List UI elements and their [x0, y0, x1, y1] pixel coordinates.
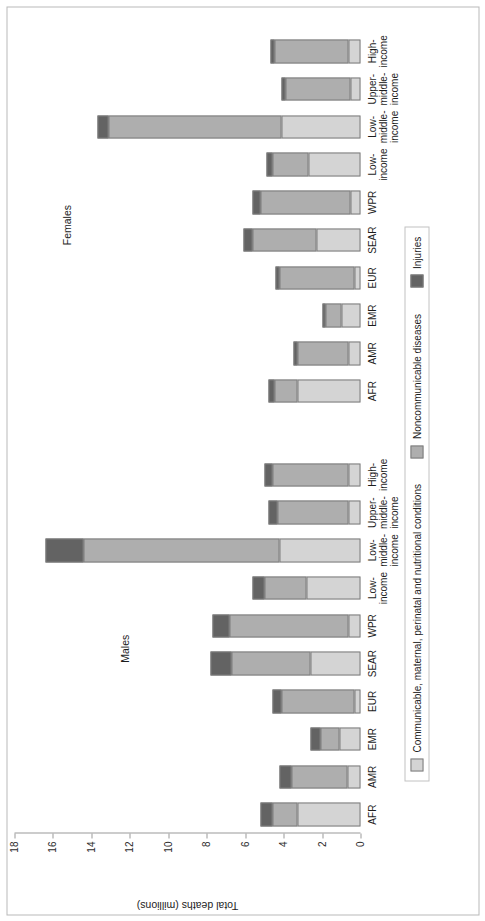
- bar-females-EMR: [14, 303, 360, 326]
- y-axis-title: Total deaths (millions): [136, 899, 238, 911]
- bar-segment: [108, 115, 281, 138]
- bar-segment: [268, 500, 278, 523]
- bar-males-EUR: [14, 689, 360, 712]
- bar-males-High-income: [14, 463, 360, 486]
- bar-segment: [212, 614, 229, 637]
- bar-segment: [285, 77, 350, 100]
- y-tick: [91, 833, 92, 838]
- bar-segment: [348, 500, 360, 523]
- y-tick-label: 18: [9, 841, 19, 867]
- bar-segment: [339, 727, 360, 750]
- bar-segment: [297, 379, 360, 402]
- bar-segment: [354, 266, 360, 289]
- y-tick-label: 14: [86, 841, 96, 867]
- y-tick: [129, 833, 130, 838]
- bar-segment: [264, 463, 272, 486]
- bar-segment: [297, 802, 360, 825]
- bar-segment: [252, 190, 260, 213]
- bar-females-EUR: [14, 266, 360, 289]
- legend-swatch-icon: [410, 758, 423, 771]
- bar-segment: [252, 228, 315, 251]
- legend-label: Communicable, maternal, perinatal and nu…: [411, 484, 422, 752]
- bar-segment: [266, 152, 272, 175]
- chart-page: Total deaths (millions) 024681012141618 …: [0, 0, 485, 921]
- y-tick-label: 10: [163, 841, 173, 867]
- y-tick: [322, 833, 323, 838]
- bar-segment: [341, 303, 360, 326]
- bar-segment: [293, 341, 297, 364]
- bar-segment: [354, 689, 360, 712]
- plot-area: [14, 32, 360, 833]
- bar-segment: [260, 190, 350, 213]
- bar-males-Upper-middle-income: [14, 500, 360, 523]
- bar-females-Low-middle-income: [14, 115, 360, 138]
- y-tick: [206, 833, 207, 838]
- bar-segment: [325, 303, 340, 326]
- bar-segment: [260, 802, 272, 825]
- y-tick: [168, 833, 169, 838]
- bar-segment: [268, 379, 274, 402]
- legend-item: Noncommunicable diseases: [410, 313, 423, 457]
- group-label-females: Females: [60, 204, 72, 244]
- bar-segment: [281, 115, 360, 138]
- bar-females-AFR: [14, 379, 360, 402]
- bar-segment: [243, 228, 253, 251]
- bar-segment: [350, 77, 360, 100]
- y-tick-label: 6: [240, 841, 250, 867]
- legend-item: Injuries: [410, 236, 423, 287]
- bar-segment: [272, 802, 297, 825]
- bar-segment: [210, 651, 231, 674]
- bar-males-Low-income: [14, 576, 360, 599]
- bar-males-AMR: [14, 765, 360, 788]
- bar-segment: [306, 576, 360, 599]
- bar-segment: [279, 538, 360, 561]
- bar-segment: [310, 727, 320, 750]
- category-label: High- income: [366, 18, 388, 84]
- bar-females-High-income: [14, 39, 360, 62]
- legend-item: Communicable, maternal, perinatal and nu…: [410, 484, 423, 771]
- bar-segment: [272, 152, 309, 175]
- y-tick-label: 2: [317, 841, 327, 867]
- y-tick-label: 8: [201, 841, 211, 867]
- bar-segment: [45, 538, 83, 561]
- bar-males-AFR: [14, 802, 360, 825]
- legend: Communicable, maternal, perinatal and nu…: [404, 226, 429, 781]
- bar-segment: [281, 689, 354, 712]
- bar-segment: [350, 190, 360, 213]
- bar-segment: [348, 614, 360, 637]
- y-tick: [283, 833, 284, 838]
- bar-segment: [272, 689, 282, 712]
- bar-segment: [310, 651, 360, 674]
- bar-segment: [83, 538, 279, 561]
- y-tick-label: 4: [278, 841, 288, 867]
- bar-segment: [97, 115, 109, 138]
- bar-segment: [277, 500, 348, 523]
- bar-males-Low-middle-income: [14, 538, 360, 561]
- y-tick-label: 12: [124, 841, 134, 867]
- bar-segment: [316, 228, 360, 251]
- bar-females-Low-income: [14, 152, 360, 175]
- bar-segment: [275, 266, 279, 289]
- group-label-males: Males: [118, 634, 130, 662]
- category-label: High- income: [366, 441, 388, 507]
- bar-segment: [281, 77, 285, 100]
- bar-segment: [291, 765, 347, 788]
- y-tick: [245, 833, 246, 838]
- bar-segment: [347, 765, 360, 788]
- bar-segment: [274, 379, 297, 402]
- figure: Total deaths (millions) 024681012141618 …: [0, 0, 485, 921]
- bar-segment: [264, 576, 306, 599]
- bar-males-SEAR: [14, 651, 360, 674]
- legend-swatch-icon: [410, 274, 423, 287]
- bar-segment: [348, 341, 360, 364]
- bar-segment: [231, 651, 310, 674]
- bar-segment: [229, 614, 348, 637]
- y-tick: [14, 833, 15, 838]
- bar-females-Upper-middle-income: [14, 77, 360, 100]
- bar-segment: [320, 727, 339, 750]
- y-tick: [52, 833, 53, 838]
- bar-segment: [270, 39, 274, 62]
- y-tick-label: 16: [47, 841, 57, 867]
- bar-segment: [279, 266, 354, 289]
- legend-swatch-icon: [410, 445, 423, 458]
